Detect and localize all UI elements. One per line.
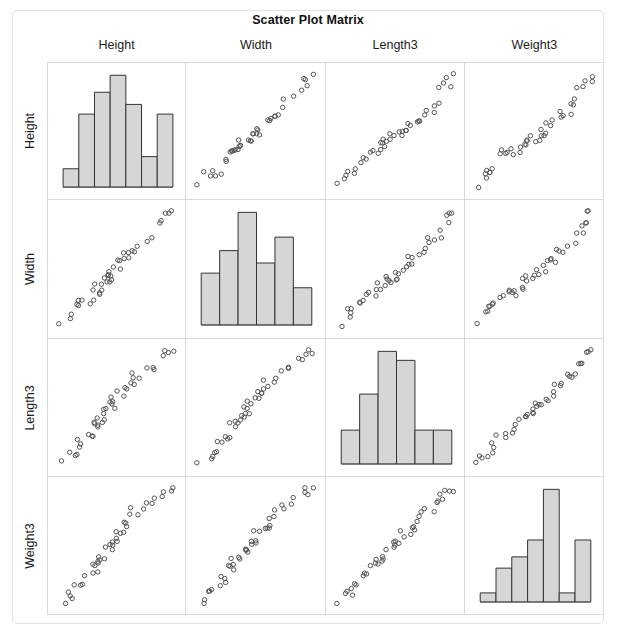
scatter-cell-height-vs-width[interactable] — [47, 200, 186, 338]
scatter-plot — [48, 477, 185, 614]
histogram-cell-weight3[interactable] — [465, 477, 604, 615]
row-label-weight3-text: Weight3 — [23, 523, 37, 569]
scatter-plot — [186, 477, 324, 614]
scatter-cell-height-vs-weight3[interactable] — [47, 477, 186, 615]
scatter-cell-weight3-vs-height[interactable] — [465, 62, 604, 200]
row-label-length3: Length3 — [17, 339, 43, 477]
scatter-cell-height-vs-length3[interactable] — [47, 339, 186, 477]
scatter-plot — [186, 339, 324, 476]
row-label-width: Width — [17, 200, 43, 338]
histogram-plot — [186, 200, 324, 337]
row-label-width-text: Width — [23, 253, 37, 285]
scatter-plot — [48, 200, 185, 337]
histogram-plot — [465, 477, 603, 614]
column-header-height: Height — [47, 38, 186, 58]
scatter-plot — [326, 63, 464, 199]
histogram-cell-length3[interactable] — [326, 339, 465, 477]
scatter-cell-width-vs-height[interactable] — [186, 62, 325, 200]
scatter-cell-weight3-vs-width[interactable] — [465, 200, 604, 338]
scatter-cell-width-vs-weight3[interactable] — [186, 477, 325, 615]
row-label-column: Height Width Length3 Weight3 — [17, 62, 43, 615]
row-label-length3-text: Length3 — [23, 385, 37, 430]
column-header-weight3: Weight3 — [465, 38, 604, 58]
page-title: Scatter Plot Matrix — [12, 13, 604, 27]
scatter-plot — [326, 200, 464, 337]
scatter-plot — [465, 339, 603, 476]
scatter-plot-matrix-figure: Scatter Plot Matrix Height Width Length3… — [0, 0, 619, 641]
column-header-width: Width — [186, 38, 325, 58]
scatter-plot — [465, 200, 603, 337]
histogram-cell-width[interactable] — [186, 200, 325, 338]
scatter-cell-length3-vs-height[interactable] — [326, 62, 465, 200]
scatter-cell-length3-vs-width[interactable] — [326, 200, 465, 338]
scatter-plot — [465, 63, 603, 199]
scatter-cell-width-vs-length3[interactable] — [186, 339, 325, 477]
scatter-plot — [326, 477, 464, 614]
row-label-height-text: Height — [23, 113, 37, 149]
histogram-plot — [326, 339, 464, 476]
row-label-height: Height — [17, 62, 43, 200]
matrix-grid — [47, 62, 604, 615]
scatter-plot — [48, 339, 185, 476]
column-header-row: Height Width Length3 Weight3 — [47, 38, 604, 58]
scatter-cell-weight3-vs-length3[interactable] — [465, 339, 604, 477]
scatter-cell-length3-vs-weight3[interactable] — [326, 477, 465, 615]
histogram-plot — [48, 63, 185, 199]
row-label-weight3: Weight3 — [17, 477, 43, 615]
column-header-length3: Length3 — [326, 38, 465, 58]
histogram-cell-height[interactable] — [47, 62, 186, 200]
scatter-plot — [186, 63, 324, 199]
